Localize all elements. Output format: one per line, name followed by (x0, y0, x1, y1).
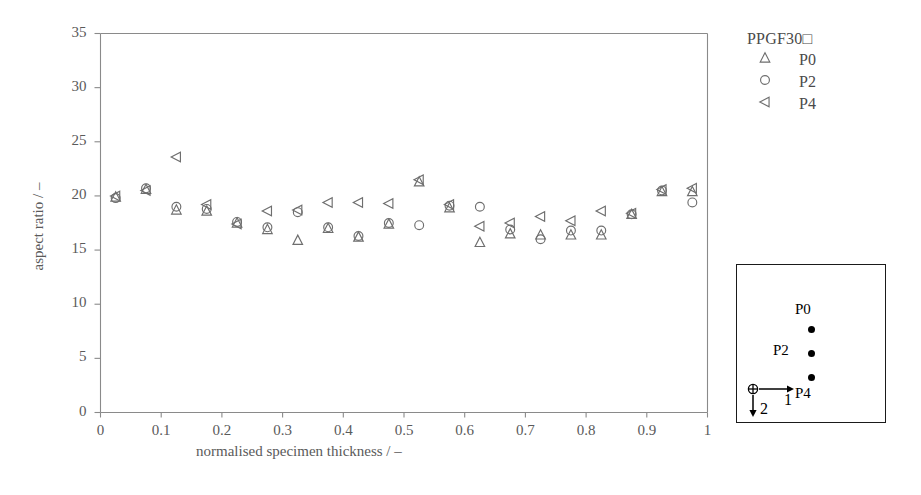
x-tick-label: 0.2 (194, 422, 250, 439)
data-point-p2 (688, 198, 697, 207)
x-tick-label: 0.8 (558, 422, 614, 439)
data-point-p2 (475, 202, 484, 211)
x-tick-label: 0 (73, 422, 129, 439)
inset-axis-2-label: 2 (760, 400, 768, 417)
x-axis-title: normalised specimen thickness / – (196, 443, 402, 460)
y-tick-label: 5 (53, 348, 87, 365)
inset-origin-circled-cross-icon (748, 384, 757, 393)
inset-axis-1-label: 1 (784, 391, 792, 408)
x-tick-label: 0.1 (133, 422, 189, 439)
x-tick-label: 1 (680, 422, 736, 439)
inset-point-p4 (808, 374, 815, 381)
inset-point-p0 (808, 326, 815, 333)
inset-axis-1-arrowhead (787, 385, 794, 392)
data-point-p4 (596, 206, 605, 216)
data-point-p4 (566, 216, 575, 226)
y-tick-label: 25 (53, 132, 87, 149)
data-point-p0 (505, 229, 515, 238)
data-point-p4 (475, 221, 484, 231)
legend-marker-circle-icon (745, 71, 785, 93)
scatter-chart: 0510152025303500.10.20.30.40.50.60.70.80… (0, 0, 720, 495)
x-tick-label: 0.4 (315, 422, 371, 439)
y-tick-label: 30 (53, 78, 87, 95)
y-axis-title: aspect ratio / – (30, 127, 47, 327)
legend-marker-glyph (760, 52, 770, 61)
plot-axes (95, 34, 708, 418)
data-point-p4 (384, 199, 393, 209)
inset-label-p2: P2 (773, 342, 789, 359)
x-tick-label: 0.9 (619, 422, 675, 439)
data-point-p4 (353, 198, 362, 208)
x-tick-label: 0.5 (376, 422, 432, 439)
inset-coordinate-axes: 12 (737, 265, 885, 422)
inset-axis-2-arrowhead (749, 410, 756, 417)
legend-title: PPGF30□ (747, 30, 905, 48)
x-tick-label: 0.6 (437, 422, 493, 439)
legend-marker-triangle-left-icon (745, 93, 785, 115)
data-point-p2 (415, 221, 424, 230)
data-point-p0 (293, 235, 303, 244)
specimen-inset-diagram: P0P2P4 12 (736, 264, 886, 423)
y-tick-label: 10 (53, 294, 87, 311)
data-point-p0 (596, 230, 606, 239)
data-point-p0 (475, 237, 485, 246)
data-point-p4 (535, 212, 544, 222)
chart-legend: PPGF30□ P0P2P4 (745, 30, 905, 114)
inset-label-p4: P4 (795, 385, 811, 402)
x-tick-label: 0.7 (497, 422, 553, 439)
data-point-p4 (262, 206, 271, 216)
y-tick-label: 35 (53, 24, 87, 41)
legend-entry-label: P2 (799, 73, 816, 91)
legend-entry-p0: P0 (745, 49, 905, 70)
legend-entry-label: P4 (799, 95, 816, 113)
y-tick-label: 20 (53, 186, 87, 203)
legend-marker-glyph (760, 97, 769, 107)
data-point-p4 (323, 198, 332, 208)
y-tick-label: 0 (53, 403, 87, 420)
inset-label-p0: P0 (795, 301, 811, 318)
legend-entry-label: P0 (799, 51, 816, 69)
x-tick-label: 0.3 (255, 422, 311, 439)
y-tick-label: 15 (53, 240, 87, 257)
legend-entry-list: P0P2P4 (745, 49, 905, 114)
legend-marker-glyph (761, 75, 770, 84)
data-point-p0 (566, 230, 576, 239)
inset-point-p2 (808, 350, 815, 357)
legend-entry-p2: P2 (745, 71, 905, 92)
legend-entry-p4: P4 (745, 93, 905, 114)
figure-root: 0510152025303500.10.20.30.40.50.60.70.80… (0, 0, 921, 495)
data-point-p4 (171, 152, 180, 162)
legend-marker-triangle-up-icon (745, 49, 785, 71)
data-markers (110, 152, 697, 246)
